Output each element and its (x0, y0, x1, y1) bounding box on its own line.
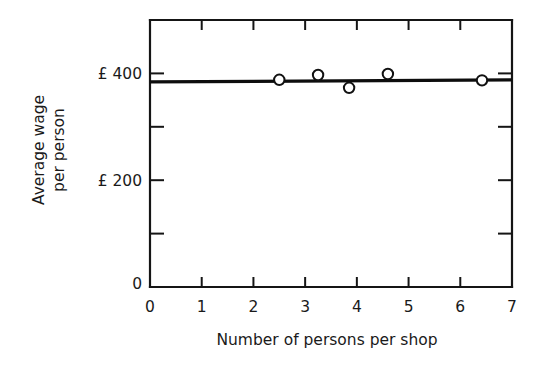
y-axis-title: Average wage per person (30, 95, 68, 205)
plot-frame (150, 20, 512, 287)
x-tick-label-0: 0 (145, 298, 155, 316)
y-tick-label-200: £ 200 (98, 172, 142, 190)
y-tick-label-400: £ 400 (98, 65, 142, 83)
regression-trend-line (150, 80, 512, 82)
scatter-plot: 01234567 0£ 200£ 400 Number of persons p… (0, 0, 535, 366)
y-axis-tick-labels: 0£ 200£ 400 (98, 65, 142, 293)
x-axis-title: Number of persons per shop (216, 331, 437, 349)
y-tick-label-0: 0 (132, 275, 142, 293)
x-axis-tick-labels: 01234567 (145, 298, 517, 316)
chart-figure: 01234567 0£ 200£ 400 Number of persons p… (0, 0, 535, 366)
x-tick-label-2: 2 (248, 298, 258, 316)
data-point-marker (344, 83, 354, 93)
data-point-marker (274, 75, 284, 85)
x-tick-label-5: 5 (404, 298, 414, 316)
x-tick-label-1: 1 (197, 298, 207, 316)
x-tick-label-4: 4 (352, 298, 362, 316)
data-point-marker (383, 69, 393, 79)
x-axis-ticks (202, 20, 461, 287)
y-axis-title-line2: per person (50, 108, 68, 192)
y-axis-title-line1: Average wage (30, 95, 48, 205)
x-tick-label-7: 7 (507, 298, 517, 316)
x-tick-label-6: 6 (455, 298, 465, 316)
data-point-marker (313, 70, 323, 80)
data-point-marker (477, 75, 487, 85)
y-axis-ticks (150, 73, 512, 233)
x-tick-label-3: 3 (300, 298, 310, 316)
